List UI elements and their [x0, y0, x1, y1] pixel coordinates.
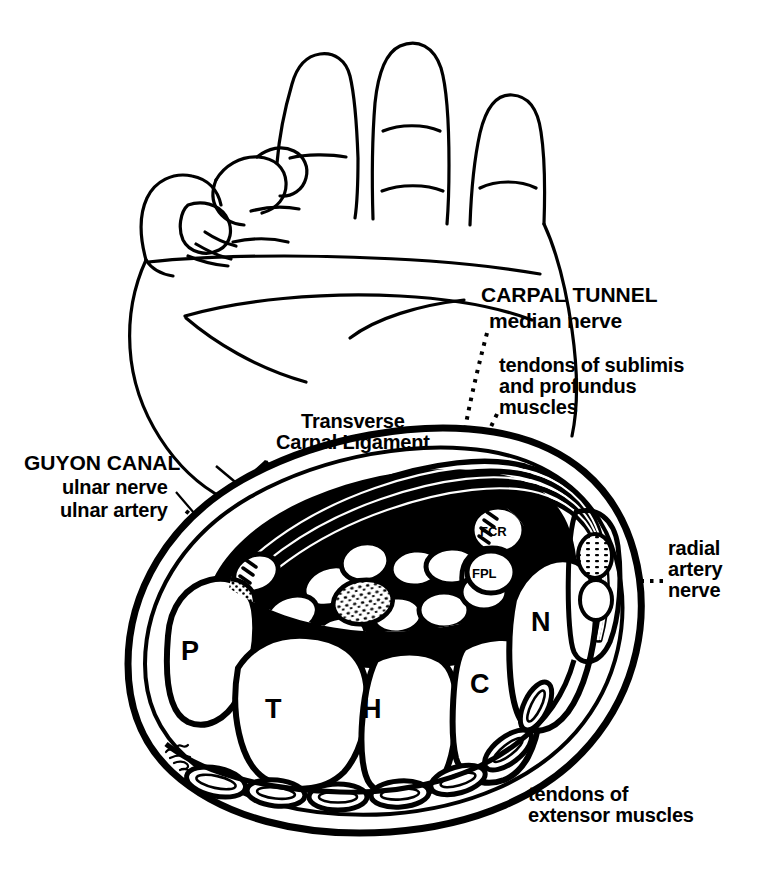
label-bone-hamate: H [362, 694, 382, 725]
label-median-nerve: median nerve [489, 310, 622, 332]
label-carpal-tunnel: CARPAL TUNNEL [481, 284, 658, 306]
wrist-cross-section [128, 428, 641, 833]
label-ulnar-nerve: ulnar nerve [62, 477, 168, 498]
label-bone-pisiform: P [181, 636, 199, 667]
bone-triquetrum [235, 636, 367, 789]
label-radial-artery-nerve: radial artery nerve [668, 538, 722, 600]
label-tendons-sublimis-profundus: tendons of sublimis and profundus muscle… [499, 355, 684, 417]
carpal-tunnel-figure: CARPAL TUNNEL median nerve tendons of su… [0, 0, 768, 883]
label-transverse-carpal-ligament: Transverse Carpal Ligament [276, 411, 430, 453]
label-bone-triquetrum: T [265, 694, 282, 725]
label-fcr: FCR [480, 524, 507, 539]
label-tendons-extensor-muscles: tendons of extensor muscles [528, 784, 694, 826]
label-bone-navicular: N [531, 607, 551, 638]
label-guyon-canal: GUYON CANAL [24, 452, 180, 474]
radial-artery-oval [580, 580, 612, 620]
label-bone-capitate: C [470, 669, 490, 700]
label-fpl: FPL [472, 566, 497, 581]
radial-nerve-stipple [578, 534, 612, 578]
label-ulnar-artery: ulnar artery [60, 500, 168, 521]
